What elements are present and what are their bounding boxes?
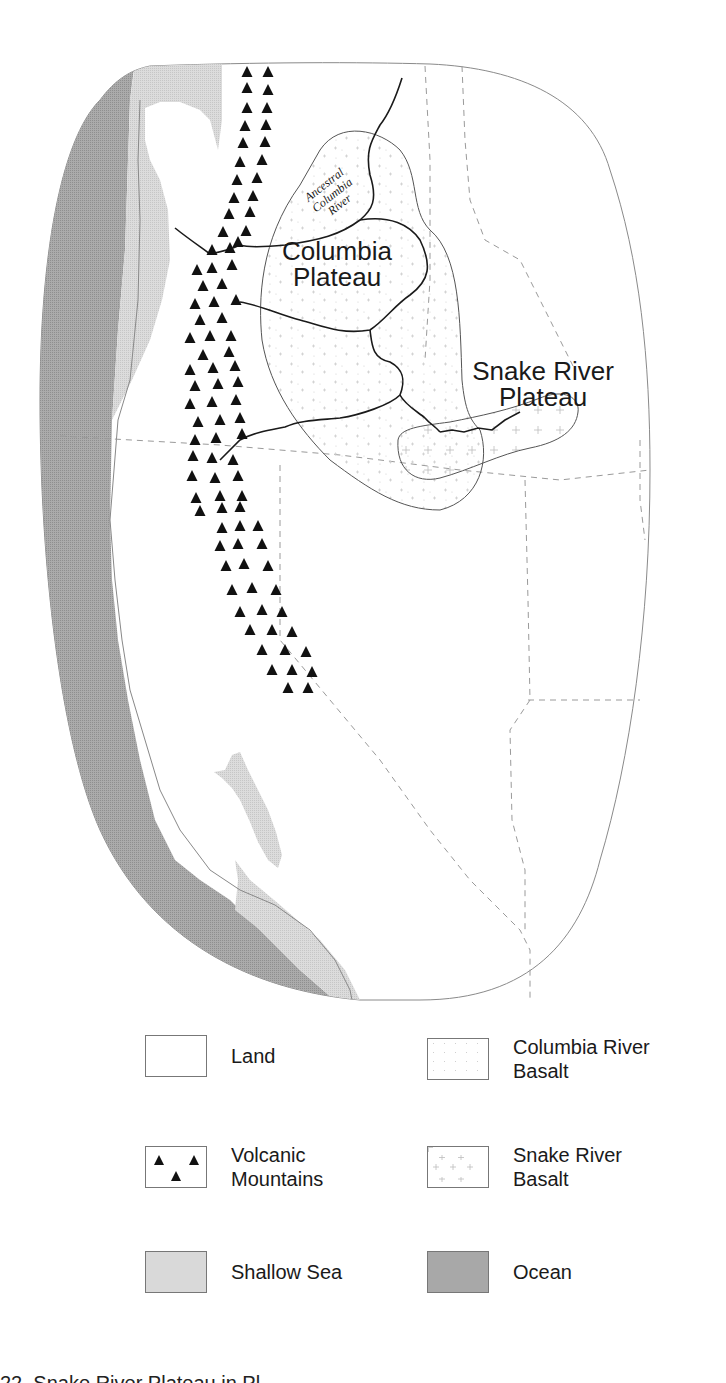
snake-river-plateau-label: Snake River Plateau <box>448 358 638 410</box>
legend-label: Ocean <box>513 1260 572 1284</box>
legend-label: Snake River Basalt <box>513 1143 622 1191</box>
legend-label: Shallow Sea <box>231 1260 342 1284</box>
label-line: Plateau <box>262 264 412 290</box>
cross-hatch-swatch-icon <box>427 1146 489 1188</box>
legend-label: Volcanic Mountains <box>231 1143 323 1191</box>
triangle-swatch-icon <box>145 1146 207 1188</box>
legend: Land Columbia River Basalt Volcanic Moun… <box>0 1020 726 1340</box>
legend-item-ocean: Ocean <box>427 1251 572 1293</box>
legend-item-shallow-sea: Shallow Sea <box>145 1251 342 1293</box>
light-stipple-swatch-icon <box>145 1251 207 1293</box>
legend-item-land: Land <box>145 1035 276 1077</box>
label-line: Snake River <box>448 358 638 384</box>
map-canvas <box>0 0 726 1010</box>
legend-item-columbia-river-basalt: Columbia River Basalt <box>427 1035 650 1083</box>
columbia-plateau-label: Columbia Plateau <box>262 238 412 290</box>
legend-item-volcanic-mountains: Volcanic Mountains <box>145 1143 323 1191</box>
label-line: Plateau <box>448 384 638 410</box>
blank-swatch-icon <box>145 1035 207 1077</box>
dark-stipple-swatch-icon <box>427 1251 489 1293</box>
speckle-swatch-icon <box>427 1038 489 1080</box>
label-line: Columbia <box>262 238 412 264</box>
figure-caption: 22. Snake River Plateau in Pl <box>0 1372 260 1383</box>
legend-item-snake-river-basalt: Snake River Basalt <box>427 1143 622 1191</box>
legend-label: Columbia River Basalt <box>513 1035 650 1083</box>
legend-label: Land <box>231 1044 276 1068</box>
